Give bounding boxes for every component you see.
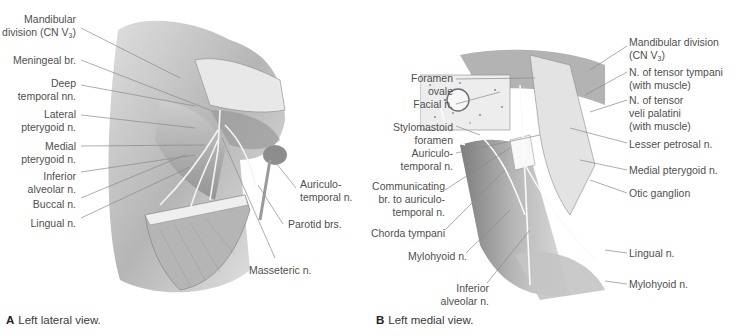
label-buccal-nerve: Buccal n.	[33, 198, 76, 211]
label-line: Deep	[18, 77, 76, 90]
label-inferior-alveolar-nerve-b: Inferior alveolar n.	[441, 282, 489, 308]
label-line: Buccal n.	[33, 198, 76, 211]
label-facial-nerve: Facial n.	[413, 98, 453, 111]
label-line: veli palatini	[629, 107, 691, 120]
label-line: Chorda tympani	[371, 227, 445, 240]
label-line: Medial	[21, 140, 76, 153]
label-line: Parotid brs.	[288, 218, 342, 231]
caption-letter: A	[6, 314, 14, 326]
label-text: )	[73, 26, 77, 38]
label-lingual-nerve: Lingual n.	[30, 217, 76, 230]
label-line: temporal nn.	[18, 90, 76, 103]
label-line: (CN V3)	[629, 49, 719, 65]
label-line: Masseteric n.	[249, 264, 311, 277]
label-communicating-branch: Communicating br. to auriculo- temporal …	[372, 180, 445, 219]
label-line: Auriculo-	[300, 178, 353, 191]
caption-a: ALeft lateral view.	[6, 314, 101, 326]
illustration-lateral-view	[100, 10, 300, 300]
label-line: Foramen	[411, 72, 453, 85]
label-line: Lesser petrosal n.	[629, 138, 712, 151]
label-line: Mandibular division	[629, 36, 719, 49]
label-line: (with muscle)	[629, 120, 691, 133]
label-stylomastoid-foramen: Stylomastoid foramen	[393, 121, 453, 147]
label-mandibular-division-b: Mandibular division (CN V3)	[629, 36, 719, 65]
label-foramen-ovale: Foramen ovale	[411, 72, 453, 98]
label-line: Lingual n.	[30, 217, 76, 230]
label-line: br. to auriculo-	[372, 193, 445, 206]
anatomy-figure: Mandibular division (CN V3) Meningeal br…	[0, 0, 739, 336]
caption-b: BLeft medial view.	[376, 314, 473, 326]
label-parotid-branches: Parotid brs.	[288, 218, 342, 231]
label-text: division (CN V	[2, 26, 69, 38]
label-line: foramen	[393, 134, 453, 147]
label-line: temporal n.	[300, 191, 353, 204]
label-line: alveolar n.	[28, 183, 76, 196]
label-line: Otic ganglion	[629, 187, 690, 200]
label-line: division (CN V3)	[2, 26, 76, 42]
label-mandibular-division: Mandibular division (CN V3)	[2, 13, 76, 42]
label-line: Inferior	[441, 282, 489, 295]
label-medial-pterygoid-nerve-b: Medial pterygoid n.	[629, 164, 718, 177]
label-auriculotemporal-nerve-b: Auriculo- temporal n.	[400, 147, 453, 173]
label-mylohyoid-nerve-b-right: Mylohyoid n.	[629, 278, 688, 291]
label-inferior-alveolar-nerve: Inferior alveolar n.	[28, 170, 76, 196]
label-line: N. of tensor tympani	[629, 66, 723, 79]
label-line: Facial n.	[413, 98, 453, 111]
label-line: pterygoid n.	[21, 153, 76, 166]
caption-text: Left lateral view.	[18, 314, 100, 326]
label-line: Mandibular	[2, 13, 76, 26]
label-lateral-pterygoid-nerve: Lateral pterygoid n.	[21, 108, 76, 134]
label-otic-ganglion: Otic ganglion	[629, 187, 690, 200]
label-line: Stylomastoid	[393, 121, 453, 134]
label-line: Communicating	[372, 180, 445, 193]
label-chorda-tympani: Chorda tympani	[371, 227, 445, 240]
label-line: Medial pterygoid n.	[629, 164, 718, 177]
label-line: ovale	[411, 85, 453, 98]
label-line: N. of tensor	[629, 94, 691, 107]
label-nerve-tensor-veli-palatini: N. of tensor veli palatini (with muscle)	[629, 94, 691, 133]
label-lingual-nerve-b: Lingual n.	[629, 247, 675, 260]
label-line: Lateral	[21, 108, 76, 121]
label-line: Inferior	[28, 170, 76, 183]
label-medial-pterygoid-nerve: Medial pterygoid n.	[21, 140, 76, 166]
label-text: (CN V	[629, 49, 658, 61]
label-line: temporal n.	[400, 160, 453, 173]
label-mylohyoid-nerve-b-left: Mylohyoid n.	[408, 250, 467, 263]
caption-letter: B	[376, 314, 384, 326]
label-line: Mylohyoid n.	[629, 278, 688, 291]
label-text: )	[662, 49, 666, 61]
label-line: Meningeal br.	[13, 54, 76, 67]
label-line: (with muscle)	[629, 79, 723, 92]
label-nerve-tensor-tympani: N. of tensor tympani (with muscle)	[629, 66, 723, 92]
label-meningeal-branch: Meningeal br.	[13, 54, 76, 67]
label-auriculotemporal-nerve-a: Auriculo- temporal n.	[300, 178, 353, 204]
label-masseteric-nerve: Masseteric n.	[249, 264, 311, 277]
label-line: temporal n.	[372, 206, 445, 219]
label-deep-temporal-nerves: Deep temporal nn.	[18, 77, 76, 103]
label-line: Mylohyoid n.	[408, 250, 467, 263]
label-line: pterygoid n.	[21, 121, 76, 134]
label-lesser-petrosal-nerve: Lesser petrosal n.	[629, 138, 712, 151]
label-line: alveolar n.	[441, 295, 489, 308]
label-line: Lingual n.	[629, 247, 675, 260]
label-line: Auriculo-	[400, 147, 453, 160]
caption-text: Left medial view.	[388, 314, 473, 326]
